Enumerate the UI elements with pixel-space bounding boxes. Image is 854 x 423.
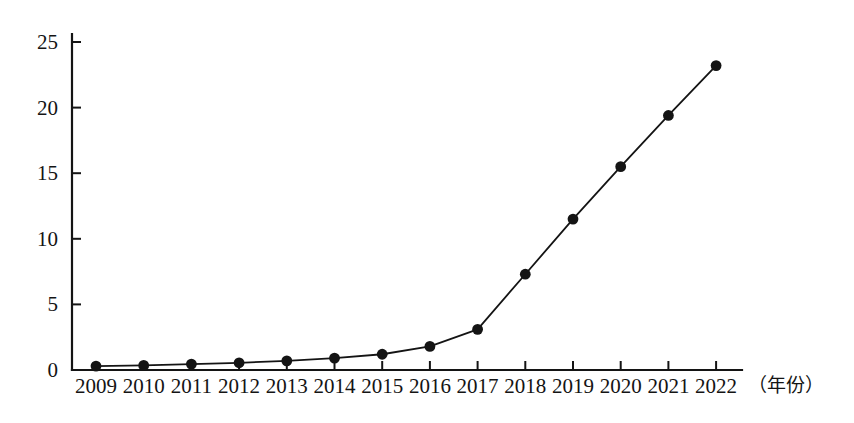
x-axis-tick-label: 2021 [647, 374, 689, 398]
data-point-marker [568, 214, 579, 225]
x-axis-tick-label: 2010 [123, 374, 165, 398]
x-axis-tick-label: 2009 [75, 374, 117, 398]
y-axis-tick-label: 20 [37, 96, 58, 120]
x-axis-tick-label: 2016 [409, 374, 451, 398]
y-axis-tick-label: 25 [37, 30, 58, 54]
x-axis-tick-label: 2020 [600, 374, 642, 398]
data-point-marker [377, 349, 388, 360]
x-axis-tick-label: 2017 [457, 374, 499, 398]
x-axis-tick-label: 2012 [218, 374, 260, 398]
data-point-marker [138, 360, 149, 371]
x-axis-tick-label: 2013 [266, 374, 308, 398]
y-axis-tick-label: 0 [48, 358, 59, 382]
data-point-marker [234, 357, 245, 368]
data-point-marker [663, 110, 674, 121]
data-point-marker [711, 60, 722, 71]
x-axis-unit-label: （年份） [748, 374, 824, 396]
x-axis-tick-label: 2011 [171, 374, 212, 398]
data-point-marker [186, 359, 197, 370]
data-point-marker [281, 355, 292, 366]
data-point-marker [425, 341, 436, 352]
data-point-marker [520, 269, 531, 280]
x-axis-tick-label: 2022 [695, 374, 737, 398]
x-axis-tick-label: 2018 [504, 374, 546, 398]
chart-canvas: 0510152025 20092010201120122013201420152… [0, 0, 854, 423]
y-axis-tick-label: 5 [48, 292, 59, 316]
data-point-marker [91, 361, 102, 372]
data-point-marker [472, 324, 483, 335]
chart-background [0, 0, 854, 423]
data-point-marker [615, 161, 626, 172]
x-axis-tick-label: 2014 [314, 374, 357, 398]
y-axis-tick-label: 10 [37, 227, 58, 251]
line-chart: 0510152025 20092010201120122013201420152… [0, 0, 854, 423]
data-point-marker [329, 353, 340, 364]
x-axis-tick-label: 2015 [361, 374, 403, 398]
x-axis-tick-label: 2019 [552, 374, 594, 398]
y-axis-tick-label: 15 [37, 161, 58, 185]
